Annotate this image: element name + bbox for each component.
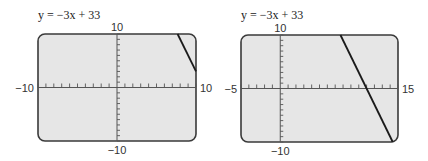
xmax-label: 15 bbox=[402, 83, 414, 95]
graph-panel-left: y = −3x + 33 10−10−1010 bbox=[0, 0, 214, 161]
xmin-label: −5 bbox=[224, 83, 237, 95]
ymax-label: 10 bbox=[274, 22, 286, 34]
graph-panel-right: y = −3x + 33 10−10−515 bbox=[214, 0, 428, 161]
xmax-label: 10 bbox=[200, 82, 212, 94]
ymin-label: −10 bbox=[108, 144, 127, 156]
graph-screen: 10−10−515 bbox=[214, 0, 428, 161]
ymin-label: −10 bbox=[271, 145, 290, 157]
xmin-label: −10 bbox=[15, 82, 34, 94]
ymax-label: 10 bbox=[111, 21, 123, 33]
graph-screen: 10−10−1010 bbox=[0, 0, 214, 161]
